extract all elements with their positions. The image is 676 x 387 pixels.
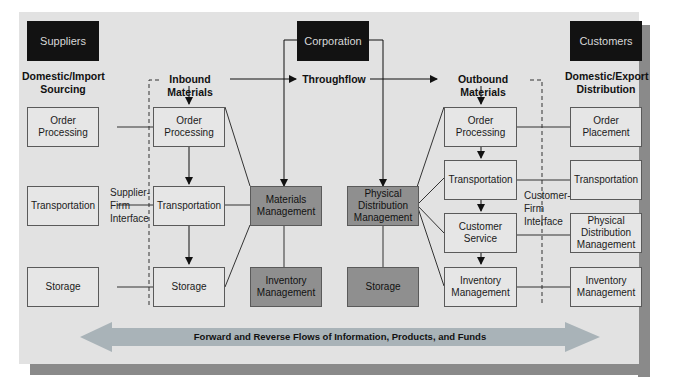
distribution-storage-box: Storage xyxy=(347,267,419,307)
inbound-storage-box: Storage xyxy=(153,267,225,307)
domestic-export-heading: Domestic/Export Distribution xyxy=(565,70,647,96)
customer-inventory-management-box: Inventory Management xyxy=(570,267,642,307)
customer-order-placement-box: Order Placement xyxy=(570,107,642,147)
flow-banner-label: Forward and Reverse Flows of Information… xyxy=(90,331,590,342)
materials-management-box: Materials Management xyxy=(250,186,322,226)
suppliers-box: Suppliers xyxy=(27,21,99,61)
outbound-materials-heading: Outbound Materials xyxy=(437,73,529,99)
customer-service-box: Customer Service xyxy=(444,213,517,253)
customer-transportation-box: Transportation xyxy=(570,160,642,200)
customer-firm-interface-label: Customer- Firm Interface xyxy=(524,189,571,228)
suppliers-label: Suppliers xyxy=(40,35,86,47)
corporation-label: Corporation xyxy=(304,35,361,47)
customers-box: Customers xyxy=(570,21,642,61)
customer-physical-distribution-box: Physical Distribution Management xyxy=(570,213,642,253)
inbound-materials-heading: Inbound Materials xyxy=(150,73,230,99)
supplier-storage-box: Storage xyxy=(27,267,99,307)
inventory-management-box: Inventory Management xyxy=(250,267,322,307)
supplier-firm-interface-label: Supplier- Firm Interface xyxy=(110,186,150,225)
supplier-order-processing-box: Order Processing xyxy=(27,107,99,147)
supplier-transportation-box: Transportation xyxy=(27,186,99,226)
physical-distribution-management-box: Physical Distribution Management xyxy=(347,186,419,226)
outbound-order-processing-box: Order Processing xyxy=(444,107,517,147)
domestic-import-heading: Domestic/Import Sourcing xyxy=(22,70,104,96)
inbound-transportation-box: Transportation xyxy=(153,186,225,226)
inbound-order-processing-box: Order Processing xyxy=(153,107,225,147)
corporation-box: Corporation xyxy=(297,21,369,61)
throughflow-heading: Throughflow xyxy=(298,73,370,86)
outbound-inventory-management-box: Inventory Management xyxy=(444,267,517,307)
customers-label: Customers xyxy=(579,35,632,47)
outbound-transportation-box: Transportation xyxy=(444,160,517,200)
